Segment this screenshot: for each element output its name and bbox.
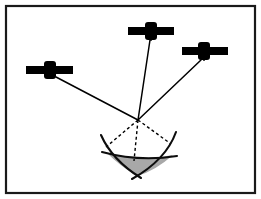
satellite-top-panel-right-icon bbox=[157, 27, 174, 35]
satellite-right-panel-left-icon bbox=[182, 47, 199, 55]
satellite-top-panel-left-icon bbox=[128, 27, 145, 35]
satellite-top-body-icon bbox=[145, 22, 157, 40]
diagram-canvas: Satellite triangulation geometry diagram… bbox=[0, 0, 261, 199]
satellite-left-panel-right-icon bbox=[56, 66, 73, 74]
satellite-triangulation-diagram: Satellite triangulation geometry diagram… bbox=[0, 0, 261, 199]
satellite-left-body-icon bbox=[44, 61, 56, 79]
satellite-right-panel-right-icon bbox=[210, 47, 228, 55]
satellite-right-body-icon bbox=[198, 42, 210, 60]
satellite-left-panel-left-icon bbox=[26, 66, 45, 74]
